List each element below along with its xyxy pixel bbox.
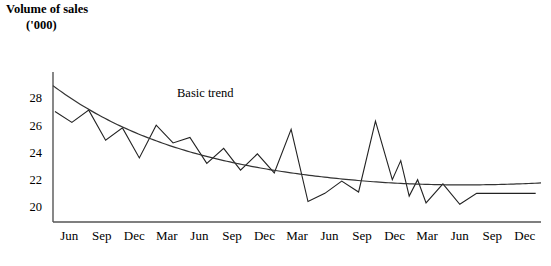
sales-data-line bbox=[55, 110, 536, 204]
plot-area bbox=[0, 0, 551, 266]
sales-volume-chart: Volume of sales ('000) Basic trend 28262… bbox=[0, 0, 551, 266]
